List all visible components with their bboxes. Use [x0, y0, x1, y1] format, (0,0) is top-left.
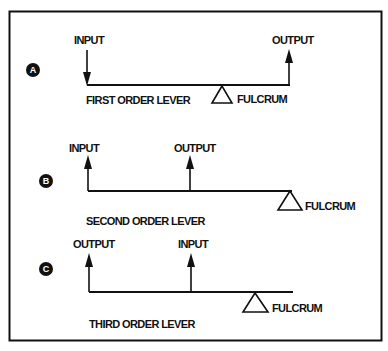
panel-second-order-lever: B INPUT OUTPUT FULCRUM SECOND ORDER LEVE… [39, 142, 356, 227]
input-label: INPUT [178, 238, 209, 250]
badge-a: A [26, 63, 40, 77]
lever-title: THIRD ORDER LEVER [89, 318, 196, 330]
lever-title: SECOND ORDER LEVER [86, 215, 205, 227]
input-arrow-down-icon [83, 50, 91, 86]
badge-letter: A [30, 65, 37, 75]
input-arrow-up-icon [84, 155, 92, 191]
output-arrow-up-icon [85, 253, 93, 292]
input-arrow-up-icon [187, 253, 195, 292]
badge-b: B [39, 174, 53, 188]
input-label: INPUT [74, 34, 105, 46]
input-label: INPUT [69, 142, 100, 154]
output-label: OUTPUT [272, 34, 315, 46]
panel-first-order-lever: A INPUT OUTPUT FULCRUM FIRST ORDER LEVER [26, 34, 315, 106]
output-label: OUTPUT [174, 142, 217, 154]
lever-diagram: A INPUT OUTPUT FULCRUM FIRST ORDER LEVER… [0, 0, 388, 351]
lever-title: FIRST ORDER LEVER [86, 94, 191, 106]
fulcrum-triangle-icon [212, 86, 232, 103]
fulcrum-triangle-icon [278, 191, 302, 210]
fulcrum-label: FULCRUM [237, 93, 288, 105]
badge-letter: B [43, 176, 50, 186]
output-arrow-up-icon [186, 155, 194, 191]
panel-third-order-lever: C OUTPUT INPUT FULCRUM THIRD ORDER LEVER [39, 238, 323, 330]
fulcrum-label: FULCRUM [305, 200, 356, 212]
fulcrum-triangle-icon [243, 293, 268, 312]
fulcrum-label: FULCRUM [272, 302, 323, 314]
output-label: OUTPUT [73, 238, 116, 250]
badge-c: C [39, 262, 53, 276]
badge-letter: C [43, 264, 50, 274]
output-arrow-up-icon [285, 49, 293, 85]
